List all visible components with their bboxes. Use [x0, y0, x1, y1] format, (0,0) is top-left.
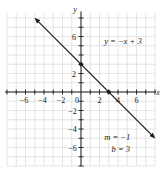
x-tick-label: −2 [57, 96, 66, 105]
y-tick-label: 2 [72, 70, 76, 79]
x-axis-label: x [155, 88, 160, 97]
line-graph: −6−4−224662−2−4−60xy y = −x + 3m = −1b =… [0, 0, 163, 170]
annotation: y = −x + 3 [103, 36, 142, 46]
x-tick-label: 2 [98, 96, 102, 105]
y-tick-label: −4 [68, 125, 77, 134]
x-tick-label: −4 [38, 96, 47, 105]
point-y-intercept [79, 62, 83, 66]
axes [5, 11, 156, 166]
y-axis-label: y [72, 5, 77, 14]
annotation: m = −1 [104, 132, 130, 142]
origin-label: 0 [75, 96, 79, 105]
y-tick-label: −2 [68, 107, 77, 116]
annotation: b = 3 [112, 144, 130, 154]
x-tick-label: 6 [135, 96, 139, 105]
x-tick-label: 4 [116, 96, 120, 105]
y-tick-label: 6 [72, 33, 76, 42]
x-tick-label: −6 [20, 96, 29, 105]
y-tick-label: −6 [68, 144, 77, 153]
point-x-intercept [107, 90, 111, 94]
